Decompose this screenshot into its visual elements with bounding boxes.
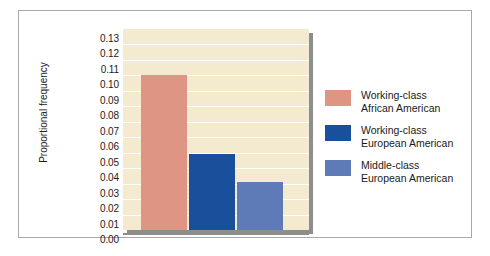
legend-item-0[interactable]: Working-classAfrican American [325,89,485,114]
y-tick-label: 0.03 [100,189,119,199]
legend-item-2[interactable]: Middle-classEuropean American [325,159,485,184]
plot-area [123,29,309,230]
bar-0 [141,75,187,230]
y-tick-label: 0.04 [100,173,119,183]
gridline [123,44,309,45]
figure-frame-border: Proportional frequency 0.130.120.110.100… [18,10,472,238]
y-tick-label: 0.07 [100,127,119,137]
y-tick-label: 0.02 [100,204,119,214]
legend-label-line1: Middle-class [361,159,453,172]
legend-swatch-1 [325,125,351,141]
legend-label-line2: European American [361,137,453,150]
y-axis-title: Proportional frequency [38,53,49,173]
legend-label-line2: European American [361,172,453,185]
bar-1 [189,154,235,230]
legend-swatch-2 [325,160,351,176]
y-tick-label: 0.01 [100,220,119,230]
chart-legend: Working-classAfrican AmericanWorking-cla… [325,89,485,194]
y-tick-label: 0.00 [100,235,119,245]
legend-label-0: Working-classAfrican American [361,89,440,114]
legend-item-1[interactable]: Working-classEuropean American [325,124,485,149]
legend-label-1: Working-classEuropean American [361,124,453,149]
bar-2 [237,182,283,230]
y-tick-label: 0.06 [100,142,119,152]
y-tick-label: 0.12 [100,49,119,59]
legend-label-line2: African American [361,102,440,115]
axis-baseline [123,233,309,235]
legend-label-2: Middle-classEuropean American [361,159,453,184]
y-tick-label: 0.08 [100,111,119,121]
y-tick-label: 0.11 [101,65,119,75]
y-axis-tick-labels: 0.130.120.110.100.090.080.070.060.050.04… [83,21,119,239]
gridline [123,60,309,61]
figure-container: Proportional frequency 0.130.120.110.100… [0,0,490,256]
legend-label-line1: Working-class [361,124,453,137]
legend-label-line1: Working-class [361,89,440,102]
legend-swatch-0 [325,90,351,106]
y-tick-label: 0.09 [100,96,119,106]
y-tick-label: 0.10 [100,80,119,90]
y-tick-label: 0.13 [100,34,119,44]
y-tick-label: 0.05 [100,158,119,168]
plot-area-wrapper [123,29,313,234]
